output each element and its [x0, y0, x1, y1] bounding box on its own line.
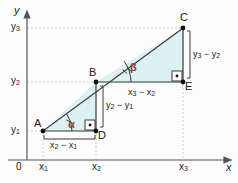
x-tick-x2-sub: 2	[97, 165, 101, 172]
diagram-canvas	[0, 0, 238, 183]
origin-label: 0	[16, 162, 22, 172]
y-axis-arrow	[24, 11, 30, 18]
y-tick-y1-sub: 1	[16, 128, 20, 135]
point-label-a: A	[34, 118, 41, 129]
y-tick-y3: y3	[11, 22, 20, 32]
point-label-d: D	[98, 130, 106, 141]
point-dot-c	[181, 26, 186, 31]
angle-label-beta: β	[130, 62, 137, 73]
rise-db-lhs-sub: 2	[111, 103, 115, 110]
x-tick-x2: x2	[92, 162, 101, 172]
x-axis-label: x	[226, 162, 232, 173]
segment-label-run-ad: x2 − x1	[50, 141, 77, 150]
axes	[8, 11, 231, 163]
point-dot-a	[41, 129, 46, 134]
point-label-b: B	[89, 67, 96, 78]
run-ad-lhs-sub: 2	[55, 143, 59, 150]
y-tick-y2-sub: 2	[16, 79, 20, 86]
y-tick-y2: y2	[11, 76, 20, 86]
point-label-c: C	[180, 12, 188, 23]
triangle-bce	[96, 28, 183, 82]
segment-label-run-be: x3 − x2	[128, 88, 155, 97]
angle-label-alpha: α	[68, 119, 75, 130]
x-tick-x3: x3	[179, 162, 188, 172]
right-angle-e-dot	[176, 75, 179, 78]
point-dot-b	[94, 80, 99, 85]
y-tick-y3-sub: 3	[16, 25, 20, 32]
x-tick-x1: x1	[39, 162, 48, 172]
rise-ec-rhs-sub: 2	[216, 52, 220, 59]
run-be-rhs-sub: 2	[151, 90, 155, 97]
rise-db-op: −	[117, 100, 122, 110]
right-angle-d-dot	[89, 124, 92, 127]
point-label-e: E	[185, 81, 192, 92]
run-be-lhs-sub: 3	[133, 90, 137, 97]
segment-label-rise-ec: y3 − y2	[193, 50, 220, 59]
x-tick-x3-sub: 3	[184, 165, 188, 172]
y-tick-y1: y1	[11, 125, 20, 135]
segment-label-rise-db: y2 − y1	[106, 101, 133, 110]
run-ad-rhs-sub: 1	[73, 143, 77, 150]
x-tick-x1-sub: 1	[44, 165, 48, 172]
rise-db-rhs-sub: 1	[129, 103, 133, 110]
rise-ec-lhs-sub: 3	[198, 52, 202, 59]
y-axis-label: y	[14, 5, 20, 16]
slope-triangle-figure: y x 0 y3 y2 y1 x1 x2 x3 A B C D E α β x2…	[0, 0, 238, 183]
run-be-op: −	[139, 87, 144, 97]
run-ad-op: −	[61, 140, 66, 150]
rise-ec-op: −	[204, 49, 209, 59]
